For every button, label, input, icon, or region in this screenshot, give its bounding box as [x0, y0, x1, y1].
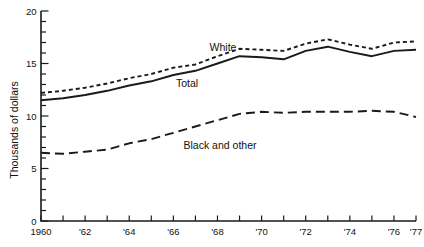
y-tick-label: 20 — [26, 6, 37, 17]
y-tick-label: 0 — [31, 216, 36, 227]
x-tick-label: '66 — [167, 226, 179, 237]
y-axis-title: Thousands of dollars — [7, 30, 21, 230]
x-tick-label: '74 — [344, 226, 356, 237]
x-tick-label: '72 — [300, 226, 312, 237]
x-tick-label: '77 — [410, 226, 422, 237]
chart-plot-area: 051015201960'62'64'66'68'70'72'74'76'77 — [0, 0, 424, 247]
x-tick-label: 1960 — [30, 226, 51, 237]
x-tick-label: '70 — [255, 226, 267, 237]
series-label-white: White — [183, 41, 263, 53]
x-tick-label: '64 — [123, 226, 135, 237]
income-line-chart: 051015201960'62'64'66'68'70'72'74'76'77 … — [0, 0, 424, 247]
x-tick-label: '62 — [79, 226, 91, 237]
series-label-black-and-other: Black and other — [160, 139, 280, 151]
y-tick-label: 5 — [31, 163, 36, 174]
x-tick-label: '68 — [211, 226, 223, 237]
series-label-total: Total — [147, 77, 227, 89]
series-line-total — [41, 47, 416, 101]
y-tick-label: 10 — [26, 111, 37, 122]
x-tick-label: '76 — [388, 226, 400, 237]
y-tick-label: 15 — [26, 58, 37, 69]
